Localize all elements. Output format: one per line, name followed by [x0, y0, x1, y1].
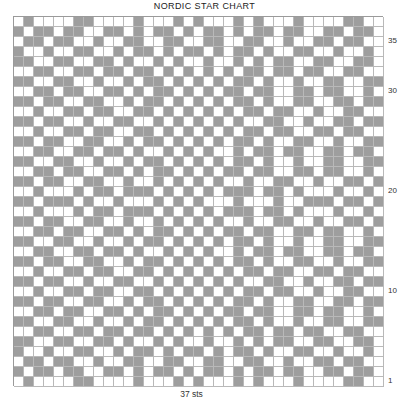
chart-cell[interactable]: [204, 287, 214, 297]
chart-cell[interactable]: [14, 137, 24, 147]
chart-cell[interactable]: [284, 197, 294, 207]
chart-cell[interactable]: [34, 17, 44, 27]
chart-cell[interactable]: [294, 217, 304, 227]
chart-cell[interactable]: [134, 167, 144, 177]
chart-cell[interactable]: [144, 367, 154, 377]
chart-cell[interactable]: [194, 17, 204, 27]
chart-cell[interactable]: [314, 77, 324, 87]
chart-cell[interactable]: [234, 357, 244, 367]
chart-cell[interactable]: [74, 137, 84, 147]
chart-cell[interactable]: [64, 217, 74, 227]
chart-cell[interactable]: [234, 157, 244, 167]
chart-cell[interactable]: [44, 247, 54, 257]
chart-cell[interactable]: [84, 297, 94, 307]
chart-cell[interactable]: [174, 347, 184, 357]
chart-cell[interactable]: [244, 57, 254, 67]
chart-cell[interactable]: [224, 267, 234, 277]
chart-cell[interactable]: [284, 307, 294, 317]
chart-cell[interactable]: [284, 267, 294, 277]
chart-cell[interactable]: [134, 107, 144, 117]
chart-cell[interactable]: [114, 117, 124, 127]
chart-cell[interactable]: [214, 17, 224, 27]
chart-cell[interactable]: [224, 117, 234, 127]
chart-cell[interactable]: [194, 237, 204, 247]
chart-cell[interactable]: [264, 177, 274, 187]
chart-cell[interactable]: [14, 287, 24, 297]
chart-cell[interactable]: [104, 47, 114, 57]
chart-cell[interactable]: [294, 307, 304, 317]
chart-cell[interactable]: [324, 197, 334, 207]
chart-cell[interactable]: [194, 77, 204, 87]
chart-cell[interactable]: [234, 337, 244, 347]
chart-cell[interactable]: [64, 317, 74, 327]
chart-cell[interactable]: [224, 157, 234, 167]
chart-cell[interactable]: [214, 117, 224, 127]
chart-cell[interactable]: [144, 27, 154, 37]
chart-cell[interactable]: [254, 127, 264, 137]
chart-cell[interactable]: [34, 97, 44, 107]
chart-cell[interactable]: [324, 147, 334, 157]
chart-cell[interactable]: [374, 47, 384, 57]
chart-cell[interactable]: [254, 147, 264, 157]
chart-cell[interactable]: [284, 77, 294, 87]
chart-cell[interactable]: [314, 307, 324, 317]
chart-cell[interactable]: [334, 147, 344, 157]
chart-cell[interactable]: [374, 317, 384, 327]
chart-cell[interactable]: [334, 337, 344, 347]
chart-cell[interactable]: [314, 197, 324, 207]
chart-cell[interactable]: [114, 17, 124, 27]
chart-cell[interactable]: [184, 257, 194, 267]
chart-cell[interactable]: [254, 67, 264, 77]
chart-cell[interactable]: [74, 27, 84, 37]
chart-cell[interactable]: [324, 377, 334, 387]
chart-cell[interactable]: [344, 127, 354, 137]
chart-cell[interactable]: [154, 347, 164, 357]
chart-cell[interactable]: [134, 257, 144, 267]
chart-cell[interactable]: [364, 77, 374, 87]
chart-cell[interactable]: [84, 17, 94, 27]
chart-cell[interactable]: [294, 327, 304, 337]
chart-cell[interactable]: [54, 87, 64, 97]
chart-cell[interactable]: [264, 237, 274, 247]
chart-cell[interactable]: [64, 327, 74, 337]
chart-cell[interactable]: [114, 267, 124, 277]
chart-cell[interactable]: [74, 207, 84, 217]
chart-cell[interactable]: [194, 127, 204, 137]
chart-cell[interactable]: [284, 337, 294, 347]
chart-cell[interactable]: [64, 127, 74, 137]
chart-cell[interactable]: [294, 177, 304, 187]
chart-cell[interactable]: [344, 87, 354, 97]
chart-cell[interactable]: [314, 177, 324, 187]
chart-cell[interactable]: [214, 237, 224, 247]
chart-cell[interactable]: [374, 137, 384, 147]
chart-cell[interactable]: [204, 187, 214, 197]
chart-cell[interactable]: [134, 67, 144, 77]
chart-cell[interactable]: [174, 237, 184, 247]
chart-cell[interactable]: [54, 107, 64, 117]
chart-cell[interactable]: [34, 187, 44, 197]
chart-cell[interactable]: [134, 37, 144, 47]
chart-cell[interactable]: [364, 207, 374, 217]
chart-cell[interactable]: [154, 157, 164, 167]
chart-cell[interactable]: [104, 277, 114, 287]
chart-cell[interactable]: [344, 187, 354, 197]
chart-grid[interactable]: [13, 16, 383, 386]
chart-cell[interactable]: [304, 267, 314, 277]
chart-cell[interactable]: [164, 147, 174, 157]
chart-cell[interactable]: [34, 257, 44, 267]
chart-cell[interactable]: [364, 137, 374, 147]
chart-cell[interactable]: [74, 287, 84, 297]
chart-cell[interactable]: [234, 247, 244, 257]
chart-cell[interactable]: [364, 217, 374, 227]
chart-cell[interactable]: [174, 177, 184, 187]
chart-cell[interactable]: [344, 47, 354, 57]
chart-cell[interactable]: [14, 237, 24, 247]
chart-cell[interactable]: [14, 277, 24, 287]
chart-cell[interactable]: [44, 157, 54, 167]
chart-cell[interactable]: [264, 357, 274, 367]
chart-cell[interactable]: [24, 97, 34, 107]
chart-cell[interactable]: [354, 207, 364, 217]
chart-cell[interactable]: [204, 127, 214, 137]
chart-cell[interactable]: [254, 97, 264, 107]
chart-cell[interactable]: [84, 257, 94, 267]
